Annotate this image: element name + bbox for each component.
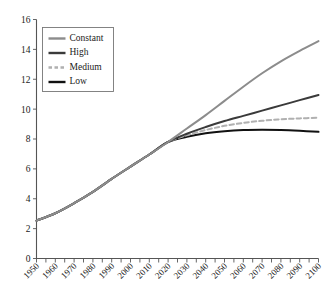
- x-axis-tick-label: 1980: [78, 260, 98, 280]
- x-axis-tick-label: 1990: [97, 260, 117, 280]
- svg-text:1970: 1970: [59, 260, 79, 280]
- svg-text:2060: 2060: [228, 260, 248, 280]
- x-axis-tick-label: 2090: [285, 260, 305, 280]
- y-axis-tick-label: 16: [21, 15, 31, 25]
- x-axis-tick-label: 2010: [134, 260, 154, 280]
- x-axis-tick-label: 2070: [247, 260, 267, 280]
- x-axis-tick-label: 2050: [209, 260, 229, 280]
- x-axis-tick-label: 1960: [40, 260, 60, 280]
- y-axis-tick-label: 6: [26, 164, 31, 174]
- y-axis-tick-label: 8: [26, 134, 31, 144]
- x-axis-tick-label: 2030: [172, 260, 192, 280]
- svg-text:1950: 1950: [21, 260, 41, 280]
- svg-text:1960: 1960: [40, 260, 60, 280]
- line-chart: 0246810121416195019601970198019902000201…: [0, 0, 329, 308]
- chart-container: 0246810121416195019601970198019902000201…: [0, 0, 329, 308]
- y-axis-tick-label: 0: [26, 254, 31, 264]
- svg-text:2010: 2010: [134, 260, 154, 280]
- y-axis-tick-label: 4: [26, 194, 31, 204]
- svg-text:2090: 2090: [285, 260, 305, 280]
- legend-label-high: High: [70, 47, 89, 57]
- svg-text:1990: 1990: [97, 260, 117, 280]
- svg-text:2030: 2030: [172, 260, 192, 280]
- legend-label-low: Low: [70, 76, 88, 86]
- y-axis-tick-label: 12: [21, 75, 31, 85]
- y-axis-tick-label: 14: [21, 45, 31, 55]
- legend-label-medium: Medium: [70, 62, 103, 72]
- svg-text:2100: 2100: [303, 260, 323, 280]
- x-axis-tick-label: 2000: [115, 260, 135, 280]
- series-line-medium: [37, 118, 319, 221]
- series-line-low: [37, 130, 319, 221]
- svg-text:2070: 2070: [247, 260, 267, 280]
- x-axis-tick-label: 2080: [266, 260, 286, 280]
- x-axis-tick-label: 2020: [153, 260, 173, 280]
- x-axis-tick-label: 2100: [303, 260, 323, 280]
- series-line-high: [37, 95, 319, 221]
- x-axis-tick-label: 2060: [228, 260, 248, 280]
- svg-text:2000: 2000: [115, 260, 135, 280]
- svg-text:2050: 2050: [209, 260, 229, 280]
- x-axis-tick-label: 1970: [59, 260, 79, 280]
- svg-text:2040: 2040: [191, 260, 211, 280]
- svg-text:1980: 1980: [78, 260, 98, 280]
- y-axis-tick-label: 2: [26, 224, 31, 234]
- svg-text:2020: 2020: [153, 260, 173, 280]
- x-axis-tick-label: 2040: [191, 260, 211, 280]
- y-axis-tick-label: 10: [21, 105, 31, 115]
- svg-text:2080: 2080: [266, 260, 286, 280]
- x-axis-tick-label: 1950: [21, 260, 41, 280]
- legend-label-constant: Constant: [70, 33, 104, 43]
